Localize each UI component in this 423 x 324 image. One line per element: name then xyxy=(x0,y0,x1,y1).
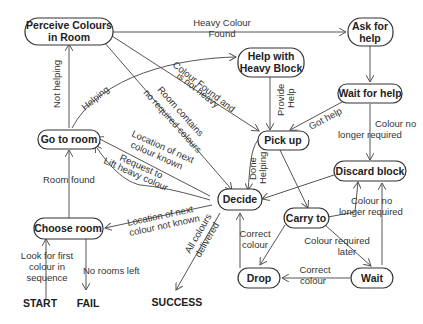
label-heavy-found: Heavy Colour xyxy=(193,17,251,28)
svg-text:Ask for: Ask for xyxy=(352,20,388,32)
label-look-first: Look for first xyxy=(21,250,74,261)
node-go-to-room: Go to room xyxy=(38,130,100,149)
node-help-heavy-block: Help with Heavy Block xyxy=(238,48,304,77)
node-wait-for-help: Wait for help xyxy=(338,84,402,103)
node-ask-for-help: Ask for help xyxy=(348,18,393,46)
label-no-longer-2: Colour no xyxy=(351,195,392,206)
svg-text:Decide: Decide xyxy=(223,193,258,205)
label-no-rooms: No rooms left xyxy=(83,265,140,276)
node-wait: Wait xyxy=(351,268,393,288)
terminal-success: SUCCESS xyxy=(152,296,203,308)
svg-text:Wait: Wait xyxy=(361,272,383,284)
label-done-2: Helping xyxy=(257,152,268,184)
svg-text:in Room: in Room xyxy=(48,31,90,43)
label-got-help: Got help xyxy=(307,105,344,132)
svg-text:Discard block: Discard block xyxy=(336,165,405,177)
label-look-first-3: sequence xyxy=(26,272,67,283)
svg-text:help: help xyxy=(359,32,381,44)
label-required-later-2: later xyxy=(338,246,356,257)
label-heavy-found-2: Found xyxy=(209,28,236,39)
label-look-first-2: colour in xyxy=(29,261,65,272)
svg-text:Go to room: Go to room xyxy=(41,133,98,145)
label-no-longer-1b: longer required xyxy=(338,129,402,140)
node-carry-to: Carry to xyxy=(284,208,329,228)
label-required-later: Colour required xyxy=(304,235,369,246)
svg-text:Drop: Drop xyxy=(247,272,272,284)
node-discard-block: Discard block xyxy=(334,161,406,181)
node-choose-room: Choose room xyxy=(34,218,103,239)
svg-text:Heavy Block: Heavy Block xyxy=(240,62,303,74)
label-no-longer-2b: longer required xyxy=(339,206,403,217)
svg-text:Choose room: Choose room xyxy=(34,222,102,234)
svg-text:Wait for help: Wait for help xyxy=(338,87,401,99)
label-correct-1b: colour xyxy=(242,239,268,250)
edges xyxy=(46,32,382,300)
label-no-longer-1: Colour no xyxy=(375,118,416,129)
label-correct-1: Correct xyxy=(239,228,271,239)
label-helping: Helping xyxy=(79,83,111,112)
label-provide-2: Help xyxy=(285,88,296,108)
node-pick-up: Pick up xyxy=(258,131,309,150)
state-diagram: Heavy Colour Found Not helping Helping C… xyxy=(0,0,423,324)
label-correct-2: Correct xyxy=(299,264,331,275)
terminal-start: START xyxy=(23,297,58,309)
svg-text:Pick up: Pick up xyxy=(264,134,301,146)
label-correct-2b: colour xyxy=(300,275,326,286)
node-drop: Drop xyxy=(238,268,280,288)
node-decide: Decide xyxy=(218,189,262,210)
svg-text:Perceive Colours: Perceive Colours xyxy=(26,19,112,31)
label-not-helping: Not helping xyxy=(51,60,62,108)
terminal-fail: FAIL xyxy=(77,297,100,309)
node-perceive-colours: Perceive Colours in Room xyxy=(25,18,113,45)
label-room-found: Room found xyxy=(43,174,95,185)
svg-text:Carry to: Carry to xyxy=(286,212,326,224)
svg-text:Help with: Help with xyxy=(248,50,295,62)
